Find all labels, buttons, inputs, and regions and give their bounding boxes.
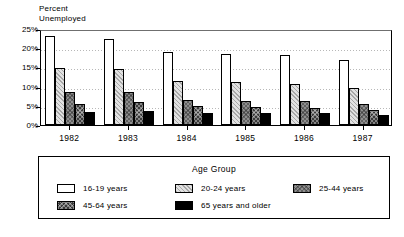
bar-1982-16-19-years: [45, 36, 55, 125]
x-axis-tick-label-1983: 1983: [106, 133, 150, 143]
bar-1985-45-64-years: [251, 107, 261, 125]
y-axis-tick-label: 0%: [14, 122, 38, 130]
bar-1985-25-44-years: [241, 101, 251, 125]
legend-label: 65 years and older: [201, 201, 271, 210]
legend-swatch-icon: [57, 184, 75, 193]
x-axis-tick-mark: [187, 126, 188, 130]
bar-1983-20-24-years: [114, 69, 124, 125]
bar-1987-65-years-and-older: [379, 115, 389, 125]
bar-1983-25-44-years: [124, 92, 134, 125]
bar-1982-45-64-years: [75, 104, 85, 126]
x-axis-tick-label-1987: 1987: [341, 133, 385, 143]
legend-label: 25-44 years: [319, 184, 363, 193]
bar-1985-65-years-and-older: [261, 113, 271, 125]
bar-1985-20-24-years: [231, 82, 241, 125]
bar-1984-65-years-and-older: [203, 113, 213, 125]
bar-group-1982: [45, 31, 95, 125]
bar-1984-25-44-years: [183, 100, 193, 125]
chart-legend: Age Group16-19 years20-24 years25-44 yea…: [38, 156, 390, 219]
legend-title: Age Group: [39, 164, 389, 174]
bar-1983-45-64-years: [134, 102, 144, 125]
bar-1986-65-years-and-older: [320, 113, 330, 125]
x-axis-tick-mark: [363, 126, 364, 130]
plot-inner: [41, 31, 391, 125]
x-axis-tick-label-1986: 1986: [282, 133, 326, 143]
y-axis-tick-label: 25%: [14, 26, 38, 34]
bar-group-1985: [221, 31, 271, 125]
bar-1986-16-19-years: [280, 55, 290, 125]
bar-1984-16-19-years: [163, 52, 173, 125]
legend-label: 16-19 years: [83, 184, 127, 193]
x-axis-tick-label-1984: 1984: [165, 133, 209, 143]
bar-group-1984: [163, 31, 213, 125]
bar-1987-45-64-years: [369, 110, 379, 125]
x-axis-tick-mark: [304, 126, 305, 130]
legend-item-45-64-years[interactable]: 45-64 years: [57, 201, 127, 210]
bar-1984-20-24-years: [173, 81, 183, 125]
legend-swatch-icon: [175, 184, 193, 193]
bar-1986-25-44-years: [300, 101, 310, 125]
y-axis-tick-label: 15%: [14, 64, 38, 72]
x-axis-tick-mark: [128, 126, 129, 130]
plot-area: [40, 30, 392, 126]
legend-item-65-years-and-older[interactable]: 65 years and older: [175, 201, 271, 210]
bar-1982-20-24-years: [55, 68, 65, 125]
legend-item-20-24-years[interactable]: 20-24 years: [175, 184, 245, 193]
bar-1987-20-24-years: [349, 88, 359, 125]
legend-label: 20-24 years: [201, 184, 245, 193]
bar-1987-25-44-years: [359, 104, 369, 125]
legend-swatch-icon: [175, 201, 193, 210]
legend-item-16-19-years[interactable]: 16-19 years: [57, 184, 127, 193]
x-axis-tick-label-1985: 1985: [223, 133, 267, 143]
legend-swatch-icon: [293, 184, 311, 193]
bar-group-1986: [280, 31, 330, 125]
bar-1985-16-19-years: [221, 54, 231, 125]
y-axis-tick-label: 10%: [14, 84, 38, 92]
bar-1987-16-19-years: [339, 60, 349, 125]
x-axis-tick-mark: [69, 126, 70, 130]
bar-1982-25-44-years: [65, 92, 75, 125]
y-axis-tick-label: 5%: [14, 103, 38, 111]
bar-1982-65-years-and-older: [85, 112, 95, 125]
bar-1983-16-19-years: [104, 39, 114, 125]
bar-group-1983: [104, 31, 154, 125]
x-axis-tick-mark: [245, 126, 246, 130]
x-axis-tick-label-1982: 1982: [47, 133, 91, 143]
bar-1986-20-24-years: [290, 84, 300, 125]
bar-1984-45-64-years: [193, 106, 203, 125]
bar-group-1987: [339, 31, 389, 125]
bar-1986-45-64-years: [310, 108, 320, 125]
legend-item-25-44-years[interactable]: 25-44 years: [293, 184, 363, 193]
y-axis-title: Percent Unemployed: [39, 4, 86, 24]
y-axis-tick-label: 20%: [14, 45, 38, 53]
legend-swatch-icon: [57, 201, 75, 210]
bar-1983-65-years-and-older: [144, 111, 154, 125]
legend-label: 45-64 years: [83, 201, 127, 210]
